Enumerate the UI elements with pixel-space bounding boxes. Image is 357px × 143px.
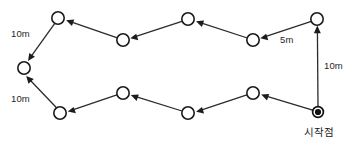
waypoint-node-5	[52, 12, 64, 24]
distance-label-top-left: 10m	[11, 28, 30, 39]
start-point-label: 시작점	[304, 126, 334, 138]
waypoint-node-9	[182, 107, 194, 119]
waypoint-node-2	[247, 34, 259, 46]
route-diagram-container: 10m 10m 5m 10m 시작점	[0, 0, 357, 143]
distance-label-right-vertical: 10m	[324, 60, 343, 71]
waypoint-node-1	[311, 13, 323, 25]
waypoint-node-7	[54, 107, 66, 119]
waypoint-node-4	[117, 34, 129, 46]
start-point-node	[313, 107, 324, 118]
waypoint-node-8	[117, 87, 129, 99]
distance-label-top-right: 5m	[280, 34, 293, 45]
waypoint-node-10	[247, 87, 259, 99]
waypoint-node-3	[182, 13, 194, 25]
waypoint-node-6	[18, 62, 30, 74]
distance-label-bottom-left: 10m	[11, 93, 30, 104]
route-waypoint-diagram: 10m 10m 5m 10m 시작점	[0, 0, 357, 143]
